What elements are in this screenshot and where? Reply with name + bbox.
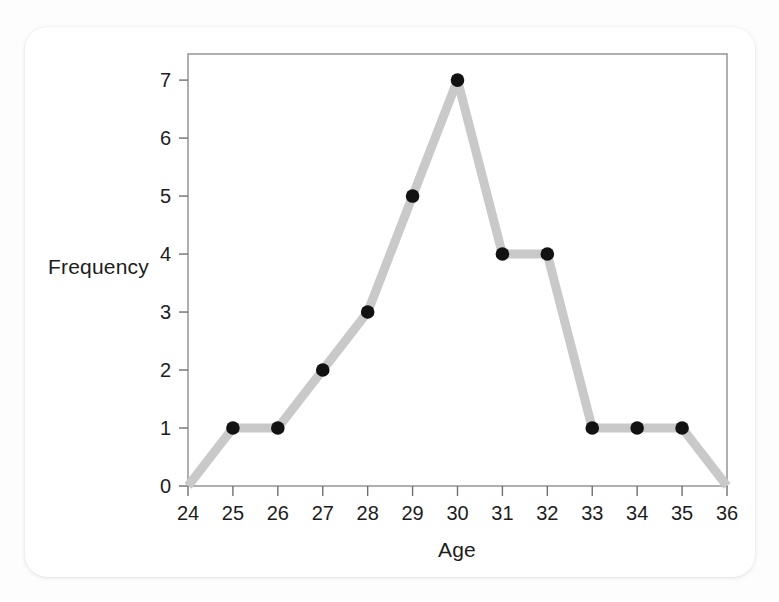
x-tick-label: 35 — [671, 502, 693, 524]
x-tick-label: 24 — [177, 502, 199, 524]
y-tick-label: 4 — [160, 243, 171, 265]
x-tick-label: 33 — [581, 502, 603, 524]
y-tick-label: 3 — [160, 301, 171, 323]
x-tick-label: 36 — [716, 502, 738, 524]
x-tick-label: 34 — [626, 502, 648, 524]
x-tick-label: 25 — [222, 502, 244, 524]
y-tick-label: 5 — [160, 185, 171, 207]
data-point-marker — [451, 73, 465, 87]
y-axis-title: Frequency — [48, 255, 149, 278]
y-axis: 01234567 — [160, 69, 188, 497]
data-point-marker — [541, 247, 555, 261]
data-point-marker — [675, 421, 689, 435]
data-point-marker — [496, 247, 510, 261]
plot-frame — [188, 54, 727, 486]
frequency-line — [188, 80, 727, 486]
x-axis: 24252627282930313233343536 — [177, 486, 738, 524]
frequency-polygon-chart: 01234567 24252627282930313233343536 Freq… — [0, 0, 779, 602]
chart-svg: 01234567 24252627282930313233343536 Freq… — [0, 0, 779, 602]
x-tick-label: 26 — [267, 502, 289, 524]
data-point-marker — [226, 421, 240, 435]
y-tick-label: 2 — [160, 359, 171, 381]
page-root: 01234567 24252627282930313233343536 Freq… — [0, 0, 779, 602]
data-markers — [226, 73, 689, 435]
x-tick-label: 27 — [312, 502, 334, 524]
data-point-marker — [585, 421, 599, 435]
data-point-marker — [361, 305, 375, 319]
data-point-marker — [271, 421, 285, 435]
x-tick-label: 29 — [401, 502, 423, 524]
x-axis-title: Age — [438, 538, 476, 561]
data-point-marker — [316, 363, 330, 377]
y-tick-label: 0 — [160, 475, 171, 497]
x-tick-label: 32 — [536, 502, 558, 524]
data-point-marker — [630, 421, 644, 435]
data-point-marker — [406, 189, 420, 203]
x-tick-label: 28 — [357, 502, 379, 524]
y-tick-label: 6 — [160, 127, 171, 149]
y-tick-label: 1 — [160, 417, 171, 439]
x-tick-label: 30 — [446, 502, 468, 524]
y-tick-label: 7 — [160, 69, 171, 91]
x-tick-label: 31 — [491, 502, 513, 524]
